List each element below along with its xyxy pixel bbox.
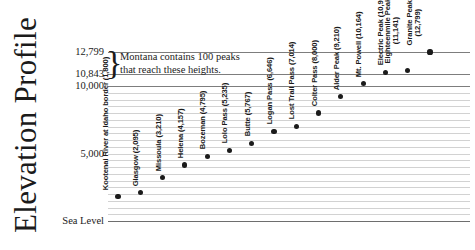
y-axis-tick-12-799: 12,799 [75,47,104,57]
data-point-dot [361,81,366,86]
data-point-dot [294,124,299,129]
gridline [108,201,470,202]
data-point-label: Colter Pass (8,000) [310,40,318,106]
data-point-label: Mt. Powell (10,164) [355,11,363,77]
data-point-dot [383,70,388,75]
y-axis-tick-10-000: 10,000 [75,81,104,91]
data-point-dot [115,194,120,199]
data-point-dot [249,141,254,146]
chart-annotation: Montana contains 100 peaks that reach th… [120,51,240,76]
y-axis-tick-sea-level: Sea Level [62,216,104,226]
data-point-label: Logan Pass (6,646) [266,57,274,124]
gridline [108,214,470,215]
gridline [108,208,470,209]
data-point-label: Helena (4,157) [177,108,185,158]
gridline [108,194,470,195]
data-point-label: Glasgow (2,095) [132,129,140,185]
gridline [108,181,470,182]
data-point-label: Bozeman (4,795) [199,91,207,149]
gridline [108,221,470,222]
data-point-dot [271,129,276,134]
data-point-dot [316,110,321,115]
y-axis-tick-10-843: 10,843 [75,69,104,79]
elevation-profile-figure: Elevation Profile 12,79910,84310,0005,00… [0,0,475,250]
data-point-label: Lolo Pass (5,235) [221,83,229,143]
data-point-label: Butte (5,767) [243,92,251,136]
gridline [108,187,470,188]
data-point-dot [227,148,232,153]
y-axis-tick-labels: 12,79910,84310,0005,000Sea Level [0,12,108,237]
data-point-label: Granite Peak(12,799) [406,0,422,45]
data-point-label: Eighteenmile Peak(11,141) [383,0,399,64]
data-point-dot [205,154,210,159]
data-point-label: Lost Trail Pass (7,014) [288,42,296,119]
data-point-dot [427,49,432,54]
data-point-dot [405,68,410,73]
data-point-label: Alder Peak (9,210) [333,26,341,90]
plot-area: Kootenai River at Idaho border (1,800)Gl… [108,12,470,237]
data-point-label: Missoula (3,210) [154,114,162,171]
